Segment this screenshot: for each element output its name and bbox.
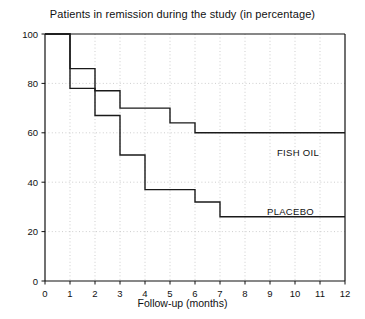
plot-area: 0123456789101112020406080100 (0, 0, 365, 319)
y-tick-label: 80 (27, 78, 38, 89)
tick-marks (42, 34, 346, 285)
series-label-placebo: PLACEBO (267, 206, 314, 217)
x-axis-label: Follow-up (months) (0, 297, 365, 309)
chart-container: Patients in remission during the study (… (0, 0, 365, 319)
y-tick-label: 40 (27, 177, 38, 188)
y-tick-label: 0 (33, 276, 38, 287)
y-tick-label: 20 (27, 226, 38, 237)
y-tick-label: 100 (22, 29, 38, 40)
y-tick-label: 60 (27, 127, 38, 138)
series-label-fish-oil: FISH OIL (277, 147, 319, 158)
